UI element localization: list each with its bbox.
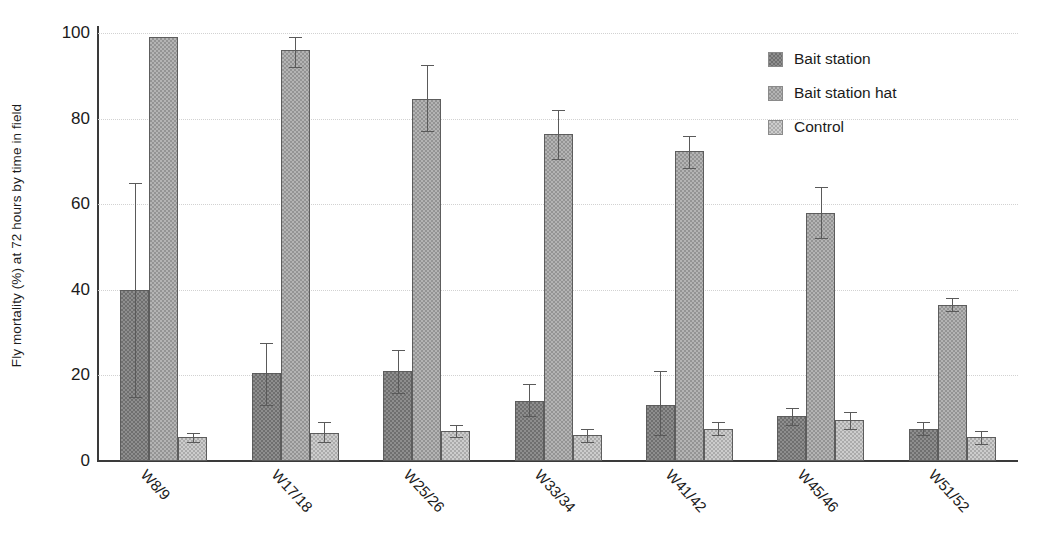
error-bar-cap-lower [450, 437, 463, 438]
error-bar-cap-lower [552, 159, 565, 160]
error-bar-line [529, 384, 530, 416]
error-bar-cap-upper [975, 431, 988, 432]
bar-group [252, 33, 339, 461]
error-bar-cap-upper [421, 65, 434, 66]
error-bar-cap-upper [450, 425, 463, 426]
error-bar-line [923, 422, 924, 435]
error-bar-cap-upper [815, 187, 828, 188]
error-bar-cap-lower [187, 442, 200, 443]
y-axis-tick-labels: 020406080100 [34, 33, 90, 461]
bar[interactable] [938, 305, 967, 461]
error-bar-line [952, 298, 953, 311]
bar[interactable] [281, 50, 310, 461]
legend-item[interactable]: Bait station [768, 42, 968, 76]
error-bar-cap-upper [552, 110, 565, 111]
y-axis-tick-label: 80 [42, 109, 90, 129]
y-axis-tick-label: 60 [42, 194, 90, 214]
error-bar-line [792, 408, 793, 425]
x-axis-tick-label: W17/18 [269, 466, 317, 515]
error-bar-cap-lower [318, 442, 331, 443]
error-bar-cap-upper [318, 422, 331, 423]
error-bar-line [295, 37, 296, 67]
error-bar-cap-lower [975, 444, 988, 445]
error-bar-cap-upper [392, 350, 405, 351]
error-bar-line [193, 433, 194, 442]
error-bar-cap-lower [844, 429, 857, 430]
error-bar-line [456, 425, 457, 438]
legend-swatch-bait-station [768, 52, 783, 67]
error-bar-cap-upper [683, 136, 696, 137]
error-bar-cap-lower [392, 393, 405, 394]
error-bar-line [821, 187, 822, 238]
bar-group [120, 33, 207, 461]
error-bar-cap-upper [786, 408, 799, 409]
bar-group [515, 33, 602, 461]
error-bar-cap-upper [844, 412, 857, 413]
x-axis-tick-label: W33/34 [532, 466, 580, 515]
legend-swatch-control [768, 120, 783, 135]
x-axis-tick-label: W45/46 [794, 466, 842, 515]
y-axis-tick-label: 40 [42, 280, 90, 300]
error-bar-cap-lower [129, 397, 142, 398]
x-axis-tick-label: W8/9 [137, 466, 173, 503]
bar[interactable] [806, 213, 835, 461]
legend-label-bait-station: Bait station [794, 50, 871, 68]
legend-label-control: Control [794, 118, 844, 136]
error-bar-cap-upper [946, 298, 959, 299]
x-axis-tick-label: W41/42 [663, 466, 711, 515]
error-bar-line [398, 350, 399, 393]
error-bar-line [427, 65, 428, 131]
error-bar-cap-lower [712, 435, 725, 436]
error-bar-cap-upper [289, 37, 302, 38]
error-bar-cap-upper [129, 183, 142, 184]
bar-group [646, 33, 733, 461]
error-bar-line [718, 422, 719, 435]
error-bar-cap-lower [421, 131, 434, 132]
y-axis-tick-label: 0 [42, 451, 90, 471]
y-axis-title: Fly mortality (%) at 72 hours by time in… [0, 0, 34, 470]
error-bar-cap-upper [917, 422, 930, 423]
x-axis-tick-label: W51/52 [926, 466, 974, 515]
error-bar-cap-lower [815, 238, 828, 239]
error-bar-cap-lower [683, 168, 696, 169]
error-bar-cap-lower [917, 435, 930, 436]
error-bar-cap-lower [260, 405, 273, 406]
error-bar-line [324, 422, 325, 441]
legend-item[interactable]: Control [768, 110, 968, 144]
error-bar-line [850, 412, 851, 429]
bar-group [383, 33, 470, 461]
bar[interactable] [412, 99, 441, 461]
error-bar-line [266, 343, 267, 405]
error-bar-cap-upper [187, 433, 200, 434]
error-bar-cap-upper [260, 343, 273, 344]
error-bar-line [981, 431, 982, 444]
error-bar-cap-lower [523, 416, 536, 417]
error-bar-line [660, 371, 661, 435]
bar-chart-figure: Fly mortality (%) at 72 hours by time in… [0, 0, 1037, 535]
y-axis-tick-label: 20 [42, 365, 90, 385]
error-bar-line [135, 183, 136, 397]
bar[interactable] [675, 151, 704, 461]
error-bar-cap-lower [946, 311, 959, 312]
y-axis-tick-label: 100 [42, 23, 90, 43]
x-axis-tick-label: W25/26 [400, 466, 448, 515]
error-bar-cap-lower [786, 425, 799, 426]
error-bar-cap-upper [712, 422, 725, 423]
error-bar-line [587, 429, 588, 442]
error-bar-line [689, 136, 690, 168]
error-bar-cap-upper [523, 384, 536, 385]
bar[interactable] [149, 37, 178, 461]
error-bar-cap-lower [289, 67, 302, 68]
bar[interactable] [544, 134, 573, 461]
legend-label-bait-station-hat: Bait station hat [794, 84, 897, 102]
error-bar-line [558, 110, 559, 159]
error-bar-cap-upper [654, 371, 667, 372]
legend-swatch-bait-station-hat [768, 86, 783, 101]
y-axis-title-text: Fly mortality (%) at 72 hours by time in… [10, 103, 25, 366]
error-bar-cap-lower [654, 435, 667, 436]
error-bar-cap-lower [581, 442, 594, 443]
legend-item[interactable]: Bait station hat [768, 76, 968, 110]
chart-legend: Bait station Bait station hat Control [768, 42, 968, 144]
error-bar-cap-upper [581, 429, 594, 430]
